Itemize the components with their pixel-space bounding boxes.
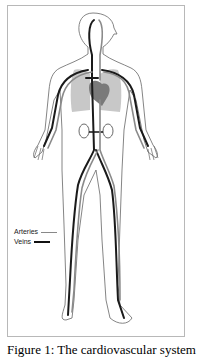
veins-line-swatch: [34, 241, 50, 243]
legend-label: Arteries: [14, 227, 38, 237]
legend: Arteries Veins: [14, 227, 57, 247]
body-outline: [34, 13, 158, 323]
legend-arteries: Arteries: [14, 227, 57, 237]
kidneys: [79, 124, 113, 138]
arteries-line-swatch: [41, 232, 57, 233]
veins: [44, 20, 148, 318]
figure-caption: Figure 1: The cardiovascular system: [7, 343, 196, 356]
legend-label: Veins: [14, 237, 31, 247]
legend-veins: Veins: [14, 237, 57, 247]
